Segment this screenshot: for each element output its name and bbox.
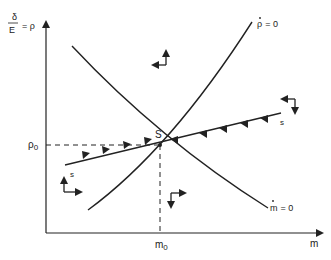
saddle-arrow xyxy=(82,151,90,159)
direction-arrows-left xyxy=(64,178,81,192)
direction-arrows-right xyxy=(282,99,295,113)
phase-diagram: δ E = ρ m ρ0 m0 ρ= 0 m= 0 s s S xyxy=(0,0,331,260)
equilibrium-label: S xyxy=(155,129,162,140)
m-dot-zero-curve xyxy=(72,46,268,208)
saddle-arrow xyxy=(219,125,227,133)
saddle-arrow xyxy=(102,146,110,154)
saddle-label-left: s xyxy=(70,170,74,179)
x-axis-label: m xyxy=(310,238,318,249)
y-axis-label-suffix: = ρ xyxy=(22,21,35,31)
y-axis-label-den: E xyxy=(9,25,15,35)
saddle-path-arrows-left xyxy=(82,137,152,159)
rho-dot-zero-label: ρ= 0 xyxy=(257,19,278,29)
saddle-arrow xyxy=(240,120,248,128)
saddle-arrow xyxy=(260,115,268,123)
y-axis-label-num: δ xyxy=(12,12,17,22)
m0-label: m0 xyxy=(155,239,168,252)
rho-dot-zero-dot xyxy=(259,17,261,19)
m-dot-zero-dot xyxy=(272,200,274,202)
direction-arrows-bottom xyxy=(171,193,185,207)
direction-arrows-top xyxy=(153,51,166,65)
equilibrium-point xyxy=(158,143,162,147)
rho0-label: ρ0 xyxy=(28,139,39,152)
saddle-label-right: s xyxy=(280,118,284,127)
m-dot-zero-label: m= 0 xyxy=(270,203,293,213)
